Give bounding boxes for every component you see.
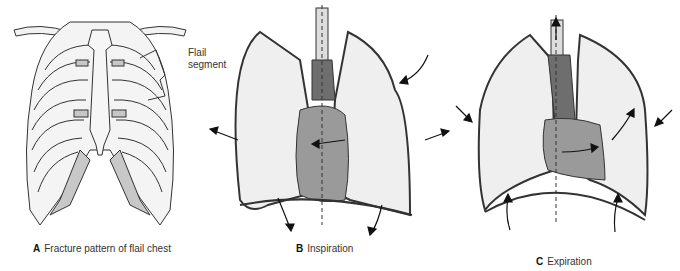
caption-b-letter: B	[296, 243, 303, 254]
caption-c-letter: C	[536, 256, 543, 267]
caption-a: AFracture pattern of flail chest	[33, 243, 171, 254]
flail-chest-diagram	[0, 0, 680, 271]
flail-label-line2: segment	[188, 59, 226, 71]
caption-a-letter: A	[33, 243, 40, 254]
caption-b: BInspiration	[296, 243, 353, 254]
expiration-illustration	[479, 15, 648, 225]
inspiration-illustration	[236, 5, 413, 225]
caption-c: CExpiration	[536, 256, 592, 267]
flail-segment-label: Flail segment	[188, 47, 226, 71]
caption-b-text: Inspiration	[307, 243, 353, 254]
caption-a-text: Fracture pattern of flail chest	[44, 243, 171, 254]
rib-cage-illustration	[14, 22, 186, 225]
flail-label-line1: Flail	[188, 47, 226, 59]
caption-c-text: Expiration	[547, 256, 591, 267]
